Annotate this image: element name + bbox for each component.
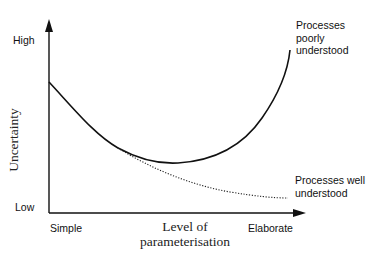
x-axis-arrow-icon bbox=[293, 209, 306, 217]
y-axis-arrow-icon bbox=[45, 19, 53, 32]
curve-well-understood bbox=[118, 148, 288, 198]
label-processes-well-understood: Processes well understood bbox=[295, 174, 365, 199]
uncertainty-diagram: High Low Uncertainty Simple Elaborate Le… bbox=[0, 0, 376, 262]
x-tick-simple: Simple bbox=[50, 222, 82, 235]
poorly-line1: Processes bbox=[296, 19, 349, 32]
poorly-line3: understood bbox=[296, 44, 349, 57]
x-tick-elaborate: Elaborate bbox=[248, 222, 293, 235]
curve-poorly-understood bbox=[49, 50, 290, 163]
x-axis-label-line2: parameterisation bbox=[130, 234, 240, 249]
well-line2: understood bbox=[295, 187, 365, 200]
poorly-line2: poorly bbox=[296, 32, 349, 45]
y-tick-high: High bbox=[13, 34, 35, 47]
x-axis-label: Level of parameterisation bbox=[130, 219, 240, 249]
y-tick-low: Low bbox=[15, 201, 34, 214]
label-processes-poorly-understood: Processes poorly understood bbox=[296, 19, 349, 57]
y-axis-label: Uncertainty bbox=[6, 108, 22, 172]
x-axis-label-line1: Level of bbox=[130, 219, 240, 234]
well-line1: Processes well bbox=[295, 174, 365, 187]
